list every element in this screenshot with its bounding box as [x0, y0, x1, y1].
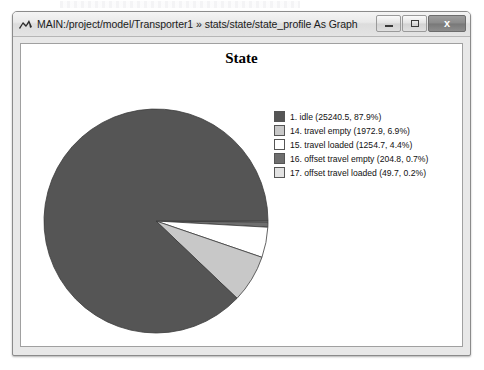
minimize-icon: [385, 25, 393, 27]
chart-legend: 1. idle (25240.5, 87.9%)14. travel empty…: [274, 110, 463, 180]
legend-color-swatch: [274, 125, 285, 136]
pie-chart: [43, 108, 269, 334]
chart-panel: State 1. idle (25240.5, 87.9%)14. travel…: [20, 43, 463, 347]
legend-item[interactable]: 1. idle (25240.5, 87.9%): [274, 110, 463, 123]
legend-item-label: 15. travel loaded (1254.7, 4.4%): [290, 140, 412, 150]
window-titlebar[interactable]: MAIN:/project/model/Transporter1 » stats…: [13, 12, 470, 37]
legend-item[interactable]: 16. offset travel empty (204.8, 0.7%): [274, 152, 463, 165]
legend-item-label: 16. offset travel empty (204.8, 0.7%): [290, 154, 428, 164]
pie-chart-svg: [43, 108, 269, 334]
close-button[interactable]: x: [428, 15, 466, 32]
legend-color-swatch: [274, 167, 285, 178]
legend-color-swatch: [274, 139, 285, 150]
legend-color-swatch: [274, 153, 285, 164]
window-client-area: State 1. idle (25240.5, 87.9%)14. travel…: [13, 37, 470, 355]
chart-peak-icon: [18, 18, 33, 31]
legend-item-label: 1. idle (25240.5, 87.9%): [290, 112, 381, 122]
legend-item-label: 17. offset travel loaded (49.7, 0.2%): [290, 168, 426, 178]
window-controls: x: [376, 15, 466, 32]
close-icon: x: [444, 18, 450, 29]
legend-item[interactable]: 14. travel empty (1972.9, 6.9%): [274, 124, 463, 137]
graph-window: MAIN:/project/model/Transporter1 » stats…: [12, 11, 471, 356]
legend-color-swatch: [274, 111, 285, 122]
maximize-icon: [411, 20, 419, 27]
window-title: MAIN:/project/model/Transporter1 » stats…: [37, 18, 358, 30]
legend-item[interactable]: 17. offset travel loaded (49.7, 0.2%): [274, 166, 463, 179]
chart-title: State: [21, 50, 462, 67]
legend-item[interactable]: 15. travel loaded (1254.7, 4.4%): [274, 138, 463, 151]
pie-slice[interactable]: [44, 109, 268, 333]
maximize-button[interactable]: [402, 15, 427, 32]
legend-item-label: 14. travel empty (1972.9, 6.9%): [290, 126, 410, 136]
background-artifact: [60, 1, 300, 8]
pie-slice-group: [44, 109, 268, 333]
minimize-button[interactable]: [376, 15, 401, 32]
